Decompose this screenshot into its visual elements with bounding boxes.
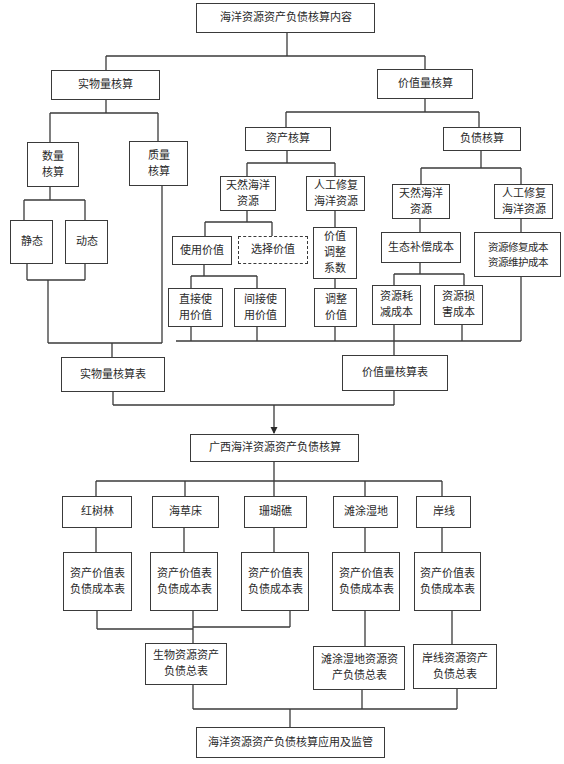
dynamic-box: 动态	[65, 220, 108, 264]
asset-artificial-resource-box: 人工修复 海洋资源	[306, 176, 365, 211]
liability-natural-resource-box: 天然海洋 资源	[392, 184, 450, 219]
value-table-box: 价值量核算表	[342, 355, 448, 391]
coral-reef-tables-box: 资产价值表 负债成本表	[241, 552, 309, 611]
guangxi-accounting-box: 广西海洋资源资产负债核算	[190, 434, 359, 462]
liability-artificial-resource-box: 人工修复 海洋资源	[494, 184, 553, 219]
direct-use-value-box: 直接使 用价值	[168, 288, 223, 327]
final-application-box: 海洋资源资产负债核算应用及监管	[196, 727, 385, 758]
category-coral-reef-box: 珊瑚礁	[244, 496, 307, 528]
bio-resource-summary-box: 生物资源资产 负债总表	[145, 643, 227, 685]
flowchart: 海洋资源资产负债核算内容 实物量核算 价值量核算 数量 核算 质量 核算 静态 …	[0, 0, 564, 764]
liability-accounting-box: 负债核算	[443, 127, 521, 151]
asset-natural-resource-box: 天然海洋 资源	[220, 176, 276, 211]
value-adjust-coef-box: 价值 调整 系数	[313, 227, 357, 279]
damage-cost-box: 资源损 害成本	[434, 285, 483, 325]
quality-accounting-box: 质量 核算	[129, 141, 188, 186]
coastline-tables-box: 资产价值表 负债成本表	[414, 552, 481, 611]
seagrass-tables-box: 资产价值表 负债成本表	[150, 552, 218, 611]
category-seagrass-box: 海草床	[152, 496, 219, 528]
wetland-summary-box: 滩涂湿地资源资 产负债总表	[313, 646, 405, 690]
indirect-use-value-box: 间接使 用价值	[234, 288, 286, 327]
eco-compensation-cost-box: 生态补偿成本	[381, 232, 461, 263]
physical-table-box: 实物量核算表	[61, 357, 165, 392]
category-mangrove-box: 红树林	[62, 496, 132, 528]
category-tidal-wetland-box: 滩涂湿地	[333, 496, 398, 528]
restore-maintain-cost-box: 资源修复成本 资源维护成本	[474, 232, 561, 277]
coastline-summary-box: 岸线资源资产 负债总表	[413, 644, 497, 689]
physical-accounting-box: 实物量核算	[51, 70, 160, 100]
category-coastline-box: 岸线	[416, 496, 471, 528]
asset-accounting-box: 资产核算	[245, 127, 331, 151]
use-value-box: 使用价值	[172, 236, 232, 265]
root-box: 海洋资源资产负债核算内容	[196, 3, 375, 33]
value-accounting-box: 价值量核算	[377, 69, 473, 99]
depletion-cost-box: 资源耗 减成本	[372, 285, 421, 325]
static-box: 静态	[10, 220, 53, 264]
adjusted-value-box: 调整 价值	[314, 288, 357, 327]
option-value-box: 选择价值	[238, 236, 308, 264]
quantity-accounting-box: 数量 核算	[27, 142, 79, 187]
tidal-wetland-tables-box: 资产价值表 负债成本表	[332, 552, 400, 611]
mangrove-tables-box: 资产价值表 负债成本表	[63, 552, 132, 611]
